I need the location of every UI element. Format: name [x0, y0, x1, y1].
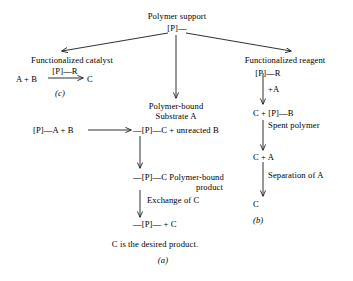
middle-node3: —[P]— + C [133, 219, 176, 229]
middle-branch-caption: (a) [158, 255, 168, 265]
right-step2-label: Separation of A [268, 170, 323, 180]
right-node1: [P]—R [255, 68, 280, 78]
right-node4: C [253, 199, 259, 209]
left-branch-caption: (c) [55, 88, 65, 98]
right-branch-caption: (b) [253, 215, 263, 225]
left-branch-heading: Functionalized catalyst [31, 55, 113, 65]
right-step1-label: +A [268, 84, 279, 94]
right-branch-heading: Functionalized reagent [245, 55, 326, 65]
middle-node1-line2: Substrate A [156, 111, 197, 121]
middle-node1-line1: Polymer-bound [149, 101, 204, 111]
left-reaction-catalyst: [P]—R [52, 66, 77, 76]
middle-step-label: Exchange of C [147, 195, 199, 205]
left-reaction-product: C [87, 74, 93, 84]
middle-row-right: —[P]—C + unreacted B [133, 125, 219, 135]
arrow-to-left-branch [62, 33, 168, 51]
polymer-support-scheme: Polymer support [P]— Functionalized cata… [0, 0, 353, 281]
right-node2: C + [P]—B [253, 108, 294, 118]
middle-node2-line2: product [196, 182, 223, 192]
polymer-support-symbol: [P]— [167, 23, 187, 33]
left-reaction-reactants: A + B [16, 74, 37, 84]
right-node2-note: Spent polymer [268, 120, 320, 130]
right-node3: C + A [253, 152, 274, 162]
arrow-to-right-branch [186, 33, 291, 51]
middle-conclusion: C is the desired product. [112, 239, 198, 249]
middle-row-left: [P]—A + B [33, 125, 74, 135]
middle-node2-line1: —[P]—C Polymer-bound [133, 172, 224, 182]
scheme-title: Polymer support [148, 11, 207, 21]
